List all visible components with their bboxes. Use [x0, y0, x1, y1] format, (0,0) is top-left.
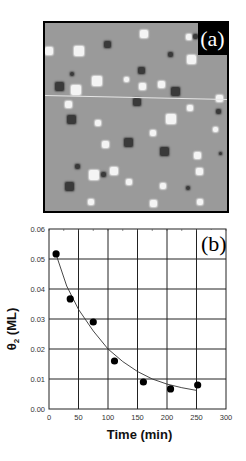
x-tick-label: 50: [74, 413, 82, 422]
bright-island: [213, 127, 218, 132]
dark-pit: [186, 186, 190, 190]
y-tick-label: 0.06: [30, 225, 45, 234]
bright-island: [158, 81, 165, 88]
bright-island: [166, 114, 176, 124]
bright-island: [92, 76, 102, 86]
data-points: [52, 250, 201, 392]
dark-pit: [138, 67, 145, 74]
y-tick-label: 0.04: [30, 285, 45, 294]
y-tick-label: 0.03: [30, 315, 45, 324]
dark-pit: [67, 115, 76, 124]
bright-island: [197, 199, 203, 205]
bright-island: [150, 130, 156, 136]
bright-island: [89, 170, 99, 180]
x-tick-label: 0: [47, 413, 51, 422]
y-axis-title: θ2 (ML): [4, 308, 21, 351]
decay-plot: 0501001502002503000.000.010.020.030.040.…: [0, 215, 246, 461]
bright-island: [160, 183, 166, 189]
dark-pit: [133, 98, 141, 106]
bright-island: [140, 30, 148, 38]
bright-island: [150, 200, 157, 207]
bright-island: [110, 167, 118, 175]
stm-image-panel-a: (a): [43, 21, 229, 213]
bright-island: [95, 120, 101, 126]
x-tick-label: 200: [161, 413, 174, 422]
bright-island: [45, 47, 53, 55]
dark-pit: [55, 82, 64, 91]
y-tick-label: 0.01: [30, 375, 45, 384]
data-point: [140, 378, 147, 385]
fit-line: [56, 255, 196, 391]
data-point: [90, 318, 97, 325]
data-point: [67, 295, 74, 302]
bright-island: [71, 85, 81, 95]
bright-island: [196, 168, 203, 175]
dark-pit: [219, 152, 222, 155]
bright-island: [126, 179, 132, 185]
bright-island: [124, 77, 129, 82]
x-tick-label: 150: [131, 413, 144, 422]
bright-island: [139, 83, 146, 90]
chart-panel-b: 0501001502002503000.000.010.020.030.040.…: [0, 215, 246, 461]
bright-island: [88, 199, 94, 205]
dark-pit: [160, 147, 169, 156]
x-tick-label: 300: [220, 413, 233, 422]
bright-island: [187, 105, 193, 111]
x-tick-label: 250: [190, 413, 203, 422]
dark-pit: [124, 138, 133, 147]
panel-label-a: (a): [198, 23, 227, 55]
dark-pit: [101, 172, 106, 177]
dark-pit: [171, 87, 180, 96]
bright-island: [102, 141, 109, 148]
x-tick-label: 100: [102, 413, 115, 422]
svg-text:θ2 (ML): θ2 (ML): [4, 308, 21, 351]
stm-image-area: (a): [45, 23, 227, 211]
data-point: [194, 381, 201, 388]
panel-label-b: (b): [201, 231, 227, 256]
bright-island: [187, 55, 196, 64]
bright-island: [194, 152, 201, 159]
data-point: [111, 357, 118, 364]
y-tick-label: 0.05: [30, 255, 45, 264]
dark-pit: [168, 52, 173, 57]
data-point: [52, 250, 59, 257]
dark-pit: [70, 72, 74, 76]
y-tick-label: 0.00: [30, 405, 45, 414]
data-point: [167, 385, 174, 392]
dark-pit: [65, 182, 74, 191]
y-tick-label: 0.02: [30, 345, 45, 354]
x-axis-title: Time (min): [107, 427, 173, 442]
dark-pit: [193, 34, 198, 39]
dark-pit: [104, 41, 111, 48]
dark-pit: [216, 109, 221, 114]
dark-pit: [75, 164, 80, 169]
bright-island: [186, 34, 192, 40]
bright-island: [65, 101, 72, 108]
fit-curve: [56, 255, 196, 391]
bright-island: [74, 46, 84, 56]
